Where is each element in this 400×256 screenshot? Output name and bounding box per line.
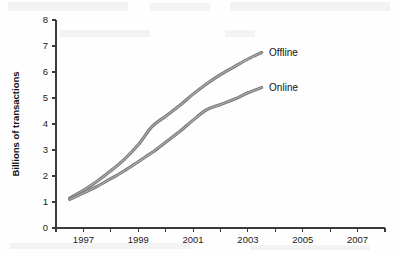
y-axis-ticks: 012345678: [43, 14, 56, 233]
x-axis-ticks: 199719992001200320052007: [56, 228, 385, 245]
y-tick-label: 8: [43, 14, 48, 25]
line-chart-svg: 012345678 199719992001200320052007 Offli…: [0, 0, 400, 256]
y-tick-label: 3: [43, 144, 48, 155]
series-labels-group: OfflineOnline: [269, 47, 298, 93]
y-tick-label: 5: [43, 92, 48, 103]
y-tick-label: 0: [43, 222, 48, 233]
series-label-offline: Offline: [269, 47, 298, 58]
y-tick-label: 6: [43, 66, 48, 77]
y-tick-label: 7: [43, 40, 48, 51]
data-series-group: [70, 53, 262, 200]
chart-container: 012345678 199719992001200320052007 Offli…: [0, 0, 400, 256]
series-line-offline: [70, 53, 262, 199]
series-label-online: Online: [269, 82, 298, 93]
y-axis-title: Billions of transactions: [10, 71, 21, 176]
x-tick-label: 1999: [128, 234, 149, 245]
x-tick-label: 2001: [183, 234, 204, 245]
y-tick-label: 2: [43, 170, 48, 181]
x-tick-label: 1997: [73, 234, 94, 245]
y-tick-label: 4: [43, 118, 48, 129]
x-tick-label: 2003: [237, 234, 258, 245]
x-tick-label: 2005: [292, 234, 313, 245]
x-tick-label: 2007: [347, 234, 368, 245]
series-line-online: [70, 88, 262, 200]
series-line-core-offline: [70, 53, 262, 199]
y-tick-label: 1: [43, 196, 48, 207]
